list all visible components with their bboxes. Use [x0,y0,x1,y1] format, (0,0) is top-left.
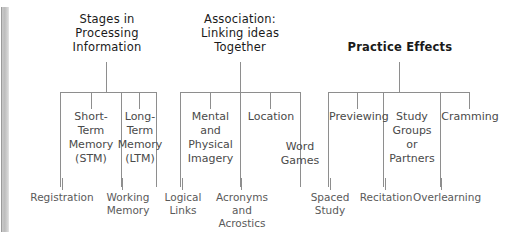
tick-long-term-memory [139,92,140,109]
node-location: Location [243,110,299,124]
vertical-scrollbar[interactable] [1,7,9,232]
tick-word-games [300,110,301,138]
branch-heading-practice-effects: Practice Effects [330,40,470,54]
leaf-overlearning: Overlearning [411,191,483,204]
node-long-term-memory: Long- Term Memory (LTM) [114,110,166,166]
node-study-groups-or-partners: Study Groups or Partners [385,110,439,166]
leaf-acronyms-acrostics: Acronyms and Acrostics [210,191,274,230]
branch-stem-practice-effects [399,62,400,92]
leaf-spaced-study: Spaced Study [303,191,357,217]
branch-bar-practice-effects [328,92,469,93]
tick-logical-links [182,178,183,190]
separator-practice-3 [440,92,441,187]
node-word-games: Word Games [272,140,328,168]
branch-heading-stages: Stages in Processing Information [57,12,157,54]
branch-bar-stages [60,92,156,93]
separator-practice-4 [469,92,470,109]
tick-mental-physical-imagery [210,92,211,109]
tick-overlearning [441,178,442,190]
tick-location [270,92,271,109]
tick-acronyms-acrostics [241,178,242,190]
leaf-logical-links: Logical Links [155,191,211,217]
tick-registration [62,178,63,190]
tick-working-memory [122,178,123,190]
leaf-registration: Registration [24,191,100,204]
separator-stages-left [60,92,61,187]
leaf-working-memory: Working Memory [98,191,158,217]
separator-practice-1 [328,92,329,187]
node-previewing: Previewing [329,110,385,124]
branch-stem-association [240,62,241,92]
tick-short-term-memory [91,92,92,109]
tick-recitation [385,178,386,190]
separator-practice-2 [383,92,384,187]
node-short-term-memory: Short- Term Memory (STM) [64,110,118,166]
separator-association-2 [240,92,241,187]
tick-previewing [357,92,358,109]
branch-stem-stages [106,62,107,92]
leaf-recitation: Recitation [355,191,417,204]
separator-association-1 [180,92,181,187]
diagram-canvas: Stages in Processing Information Short- … [0,0,519,241]
node-cramming: Cramming [441,110,499,124]
branch-heading-association: Association: Linking ideas Together [180,12,300,54]
node-mental-physical-imagery: Mental and Physical Imagery [183,110,238,166]
tick-spaced-study [330,178,331,190]
